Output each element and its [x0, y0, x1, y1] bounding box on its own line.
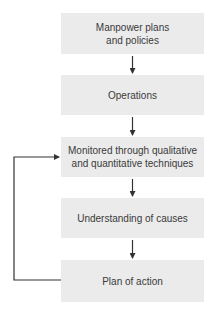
- feedback-arrow: [14, 157, 61, 280]
- connectors: [0, 0, 215, 314]
